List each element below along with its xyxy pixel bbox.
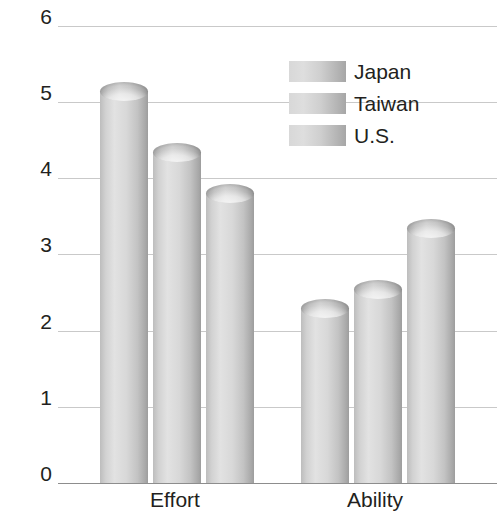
y-tick-3: 3 <box>12 234 52 255</box>
bar-cap-rim <box>407 219 455 238</box>
bar-body <box>100 91 148 483</box>
bar-cap-rim <box>100 82 148 101</box>
bar-ability-japan <box>301 308 349 483</box>
legend-swatch-taiwan <box>289 93 346 114</box>
y-tick-0: 0 <box>12 463 52 484</box>
gridline-6 <box>58 26 497 27</box>
bar-effort-taiwan <box>153 152 201 483</box>
x-label-ability: Ability <box>305 488 445 512</box>
y-tick-2: 2 <box>12 311 52 332</box>
legend-label-us: U.S. <box>354 121 395 151</box>
bar-cap-rim <box>153 143 201 162</box>
y-axis-ticks: 6 5 4 3 2 1 0 <box>0 0 52 516</box>
plot-area <box>58 0 497 516</box>
bar-body <box>301 308 349 483</box>
bar-chart: Mean rating 6 5 4 3 2 1 0 <box>0 0 497 516</box>
legend-label-taiwan: Taiwan <box>354 89 419 119</box>
bar-body <box>407 228 455 483</box>
axis-baseline <box>58 483 497 484</box>
bar-cap-rim <box>354 280 402 299</box>
legend-swatch-us <box>289 125 346 146</box>
bar-body <box>153 152 201 483</box>
legend-swatch-japan <box>289 61 346 82</box>
y-tick-5: 5 <box>12 82 52 103</box>
bar-body <box>206 193 254 483</box>
y-tick-1: 1 <box>12 387 52 408</box>
x-label-effort: Effort <box>105 488 245 512</box>
bar-body <box>354 289 402 483</box>
y-tick-4: 4 <box>12 158 52 179</box>
bar-ability-us <box>407 228 455 483</box>
bar-ability-taiwan <box>354 289 402 483</box>
legend-label-japan: Japan <box>354 57 411 87</box>
bar-cap-rim <box>301 299 349 318</box>
bar-cap-rim <box>206 184 254 203</box>
bar-effort-us <box>206 193 254 483</box>
bar-effort-japan <box>100 91 148 483</box>
y-tick-6: 6 <box>12 6 52 27</box>
